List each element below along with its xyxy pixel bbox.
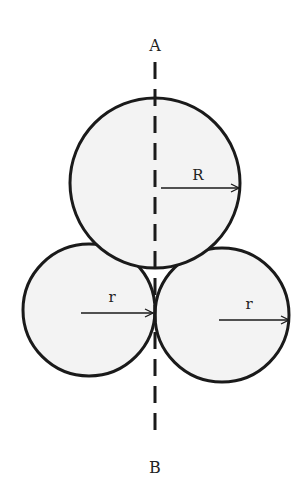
- three-circles-diagram: R r r A B: [0, 0, 307, 501]
- radius-label-large: R: [192, 166, 204, 184]
- radius-label-small-left: r: [108, 288, 116, 306]
- radius-label-small-right: r: [245, 295, 253, 313]
- axis-label-a: A: [148, 36, 161, 55]
- small-circle-right: [155, 248, 289, 382]
- axis-label-b: B: [149, 458, 161, 477]
